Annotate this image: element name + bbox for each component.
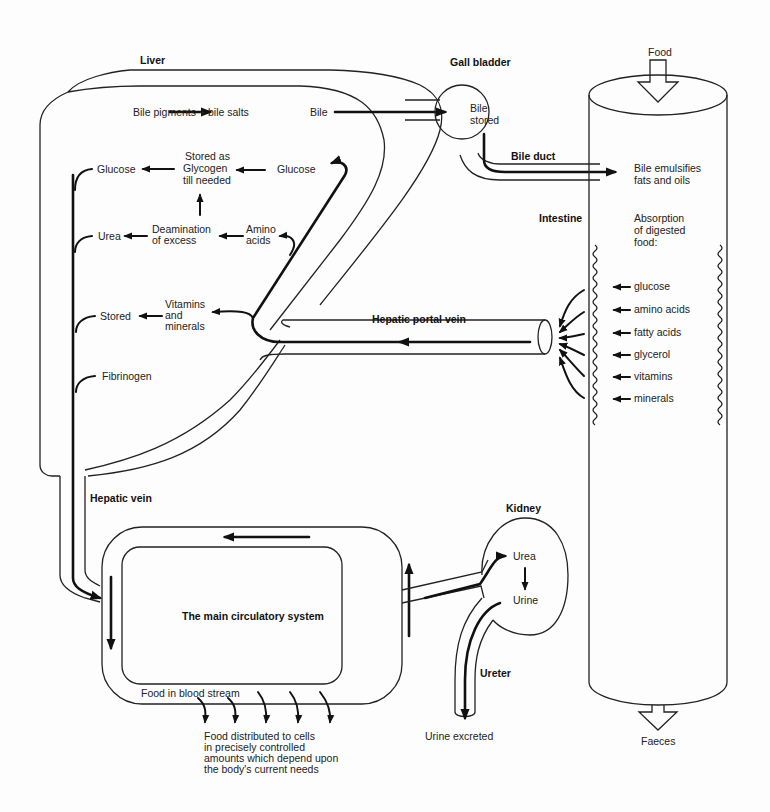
label-glucose-in: Glucose bbox=[277, 163, 316, 175]
label-gall-stored: stored bbox=[470, 114, 499, 126]
label-absorption-3: food: bbox=[634, 236, 657, 248]
absorption-arrows bbox=[560, 290, 584, 398]
nutrient-amino-acids: amino acids bbox=[634, 303, 690, 315]
label-glycogen-3: till needed bbox=[183, 174, 231, 186]
label-glycogen-1: Stored as bbox=[185, 150, 230, 162]
label-vitamins-3: minerals bbox=[165, 320, 205, 332]
label-kidney-urine: Urine bbox=[513, 594, 538, 606]
label-bile-source: Bile pigments + bile salts bbox=[133, 106, 249, 118]
label-kidney-urea: Urea bbox=[513, 550, 536, 562]
label-gall-bladder: Gall bladder bbox=[450, 56, 511, 68]
hepatic-portal-vein bbox=[213, 162, 552, 360]
nutrient-glucose: glucose bbox=[634, 280, 670, 292]
label-intestine: Intestine bbox=[539, 212, 582, 224]
label-kidney: Kidney bbox=[506, 502, 541, 514]
label-amino-2: acids bbox=[246, 234, 271, 246]
label-glucose-out: Glucose bbox=[97, 163, 136, 175]
label-food-in-blood: Food in blood stream bbox=[141, 687, 240, 699]
label-absorption-2: of digested bbox=[634, 224, 686, 236]
nutrient-glycerol: glycerol bbox=[634, 348, 670, 360]
label-urea-liver: Urea bbox=[98, 230, 121, 242]
nutrient-arrows bbox=[614, 287, 630, 399]
label-urine-excreted: Urine excreted bbox=[425, 730, 493, 742]
diagram-canvas: Liver Gall bladder Food Bile pigments + … bbox=[0, 0, 770, 812]
label-bile: Bile bbox=[310, 106, 328, 118]
nutrient-fatty-acids: fatty acids bbox=[634, 326, 681, 338]
label-hepatic-portal-vein: Hepatic portal vein bbox=[372, 313, 466, 325]
label-bile-effect-1: Bile emulsifies bbox=[634, 162, 701, 174]
label-ureter: Ureter bbox=[480, 667, 511, 679]
label-bile-duct: Bile duct bbox=[511, 150, 556, 162]
hepatic-vein bbox=[60, 175, 100, 602]
label-fibrinogen: Fibrinogen bbox=[102, 370, 152, 382]
label-distribution-4: the body's current needs bbox=[204, 763, 319, 775]
liver-processes bbox=[75, 112, 445, 392]
nutrient-vitamins: vitamins bbox=[634, 370, 673, 382]
label-food: Food bbox=[648, 46, 672, 58]
label-absorption-1: Absorption bbox=[634, 212, 684, 224]
label-stored: Stored bbox=[100, 310, 131, 322]
label-hepatic-vein: Hepatic vein bbox=[90, 492, 152, 504]
label-gall-bile: Bile bbox=[470, 102, 488, 114]
label-glycogen-2: Glycogen bbox=[183, 162, 228, 174]
label-main-circulatory-system: The main circulatory system bbox=[182, 610, 324, 622]
label-liver: Liver bbox=[140, 54, 165, 66]
label-faeces: Faeces bbox=[641, 735, 675, 747]
nutrient-minerals: minerals bbox=[634, 392, 674, 404]
label-bile-effect-2: fats and oils bbox=[634, 174, 690, 186]
kidney bbox=[402, 518, 568, 718]
liver-outline bbox=[40, 70, 442, 476]
label-deamination-2: of excess bbox=[152, 234, 196, 246]
